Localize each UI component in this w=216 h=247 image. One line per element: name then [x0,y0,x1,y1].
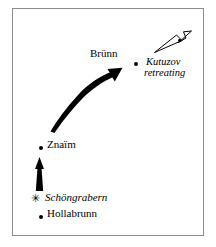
battle-star-icon-schongrabern: ✳ [31,193,40,204]
annotation-kutuzov-line1: Kutuzov [146,56,180,67]
map-border-frame [12,8,204,236]
city-dot-brunn [134,62,138,66]
city-label-schongrabern: Schöngrabern [45,192,107,203]
city-label-hollabrunn: Hollabrunn [47,208,97,219]
city-label-znaim: Znaïm [47,139,76,150]
campaign-map-figure: ✳ Brünn Znaïm Schöngrabern Hollabrunn Ku… [0,0,216,247]
city-dot-znaim [39,146,43,150]
annotation-kutuzov-line2: retreating [144,67,185,78]
city-label-brunn: Brünn [90,48,118,59]
city-dot-hollabrunn [39,215,43,219]
